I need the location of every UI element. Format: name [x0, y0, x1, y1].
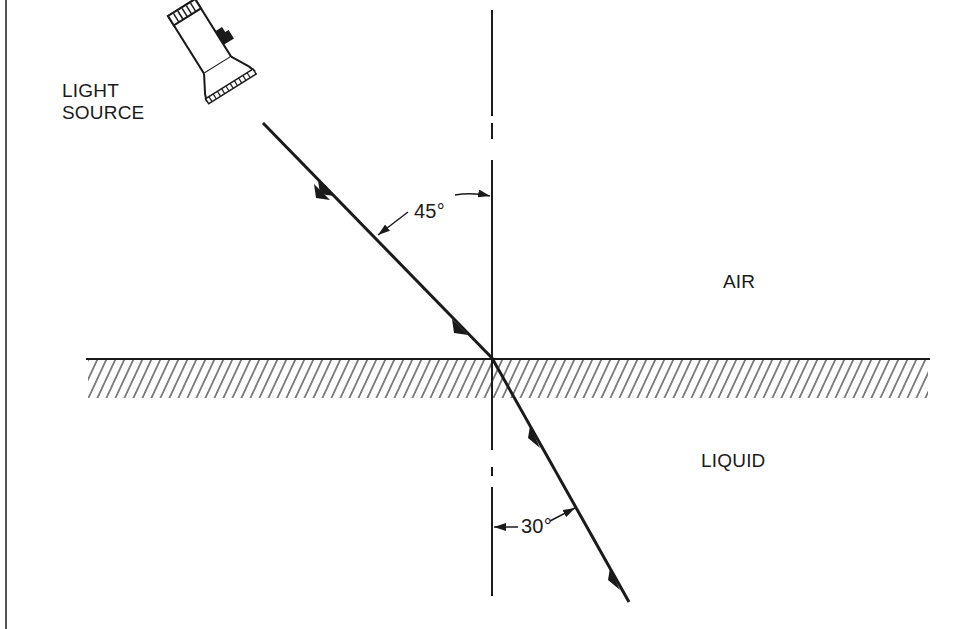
air-label: AIR: [723, 271, 755, 293]
liquid-label: LIQUID: [701, 450, 766, 472]
light-source-label-line1: LIGHT: [62, 80, 145, 102]
liquid-surface: [86, 359, 930, 398]
refraction-angle-label: 30°: [521, 515, 552, 537]
light-source-label: LIGHT SOURCE: [62, 80, 145, 124]
incident-ray: [263, 123, 492, 358]
flashlight-icon: [158, 0, 256, 104]
light-source-label-line2: SOURCE: [62, 102, 145, 124]
incidence-angle-label: 45°: [414, 200, 445, 222]
